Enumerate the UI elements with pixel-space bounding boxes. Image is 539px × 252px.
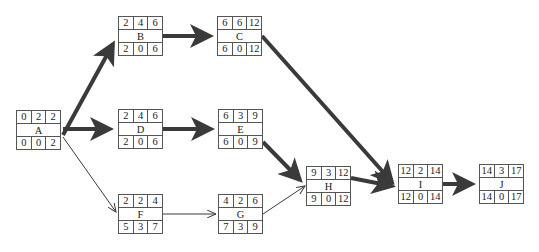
- es: 12: [399, 165, 413, 177]
- slack: 0: [321, 193, 336, 205]
- ls: 12: [399, 191, 413, 203]
- node-label: H: [325, 181, 333, 192]
- node-label: J: [499, 179, 503, 190]
- duration: 6: [232, 17, 247, 29]
- duration: 3: [494, 165, 509, 177]
- lf: 6: [147, 136, 162, 148]
- duration: 2: [31, 111, 46, 123]
- edges-layer: [0, 0, 539, 252]
- edge-a-f: [63, 137, 116, 212]
- ls: 6: [218, 43, 232, 55]
- ef: 6: [247, 195, 262, 207]
- node-label: C: [236, 31, 243, 42]
- duration: 3: [233, 110, 248, 122]
- slack: 0: [494, 191, 509, 203]
- slack: 0: [133, 43, 148, 55]
- ls: 0: [17, 137, 31, 149]
- ef: 12: [246, 17, 261, 29]
- duration: 4: [133, 17, 148, 29]
- lf: 9: [247, 136, 262, 148]
- lf: 6: [147, 43, 162, 55]
- slack: 0: [233, 136, 248, 148]
- slack: 0: [133, 136, 148, 148]
- lf: 9: [247, 221, 262, 233]
- node-b: 246 B 206: [118, 16, 163, 56]
- ef: 17: [508, 165, 523, 177]
- ef: 6: [147, 17, 162, 29]
- ls: 14: [480, 191, 494, 203]
- node-label: B: [137, 31, 144, 42]
- ef: 2: [45, 111, 60, 123]
- node-g: 426 G 739: [218, 194, 263, 234]
- node-label: F: [138, 209, 144, 220]
- node-label: G: [237, 209, 245, 220]
- ef: 9: [247, 110, 262, 122]
- duration: 3: [321, 167, 336, 179]
- node-i: 12214 I 12014: [398, 164, 443, 204]
- lf: 12: [335, 193, 350, 205]
- es: 6: [219, 110, 233, 122]
- ef: 4: [147, 195, 162, 207]
- es: 4: [219, 195, 233, 207]
- node-e: 639 E 609: [218, 109, 263, 149]
- ef: 6: [147, 110, 162, 122]
- ls: 2: [119, 43, 133, 55]
- ls: 2: [119, 136, 133, 148]
- slack: 0: [413, 191, 428, 203]
- node-label: I: [419, 179, 423, 190]
- duration: 2: [413, 165, 428, 177]
- ls: 6: [219, 136, 233, 148]
- ef: 14: [427, 165, 442, 177]
- edge-h-i: [351, 178, 392, 186]
- node-d: 246 D 206: [118, 109, 163, 149]
- slack: 3: [233, 221, 248, 233]
- lf: 17: [508, 191, 523, 203]
- node-label: E: [237, 124, 243, 135]
- lf: 7: [147, 221, 162, 233]
- edge-a-b: [63, 44, 113, 135]
- node-h: 9312 H 9012: [306, 166, 351, 206]
- slack: 0: [232, 43, 247, 55]
- ls: 5: [119, 221, 133, 233]
- es: 14: [480, 165, 494, 177]
- es: 2: [119, 17, 133, 29]
- slack: 0: [31, 137, 46, 149]
- node-f: 224 F 537: [118, 194, 163, 234]
- es: 0: [17, 111, 31, 123]
- lf: 2: [45, 137, 60, 149]
- edge-g-h: [263, 186, 305, 214]
- es: 2: [119, 195, 133, 207]
- es: 2: [119, 110, 133, 122]
- node-c: 6612 C 6012: [217, 16, 262, 56]
- node-label: A: [35, 125, 43, 136]
- duration: 4: [133, 110, 148, 122]
- node-a: 022 A 002: [16, 110, 61, 150]
- node-j: 14317 J 14017: [479, 164, 524, 204]
- slack: 3: [133, 221, 148, 233]
- ls: 7: [219, 221, 233, 233]
- node-label: D: [137, 124, 145, 135]
- duration: 2: [233, 195, 248, 207]
- es: 9: [307, 167, 321, 179]
- ls: 9: [307, 193, 321, 205]
- lf: 14: [427, 191, 442, 203]
- edge-e-h: [263, 142, 300, 180]
- lf: 12: [246, 43, 261, 55]
- ef: 12: [335, 167, 350, 179]
- duration: 2: [133, 195, 148, 207]
- es: 6: [218, 17, 232, 29]
- network-diagram: 022 A 002 246 B 206 6612 C 6012 246 D 20…: [0, 0, 539, 252]
